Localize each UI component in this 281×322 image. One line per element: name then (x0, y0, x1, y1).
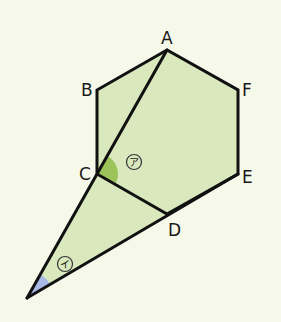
angle-a-label: ア (129, 157, 139, 168)
angle-i-label: イ (60, 259, 70, 270)
vertex-label-c: C (79, 164, 91, 184)
vertex-label-d: D (168, 220, 181, 240)
hexagon-diagram: A B C D E F ア イ (0, 0, 281, 322)
vertex-label-b: B (81, 80, 93, 100)
vertex-label-a: A (161, 28, 173, 48)
vertex-label-f: F (242, 80, 252, 100)
vertex-label-e: E (242, 167, 253, 187)
